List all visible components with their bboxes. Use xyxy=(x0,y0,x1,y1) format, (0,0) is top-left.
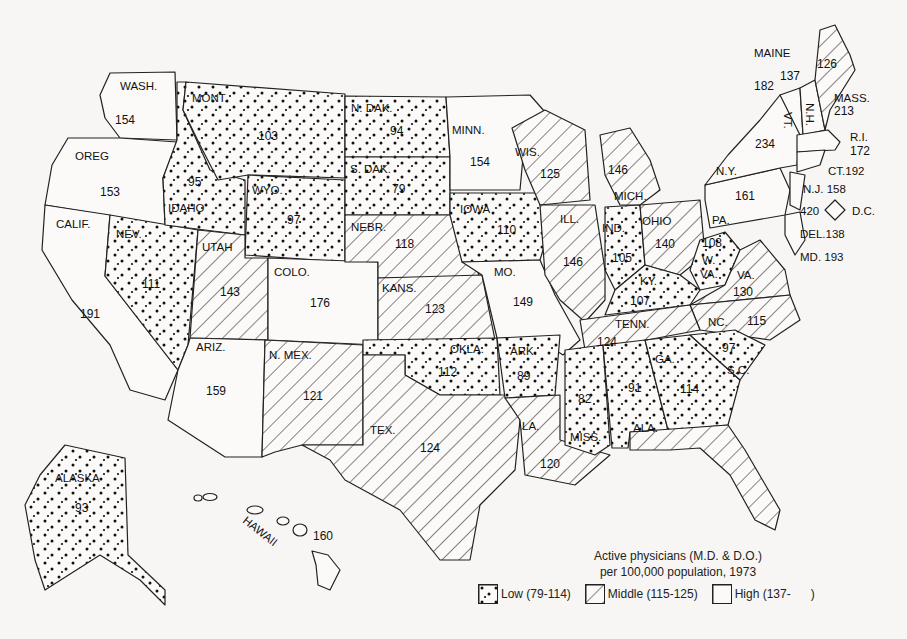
hatch-swatch-icon xyxy=(585,584,605,604)
label-sc: S.C. xyxy=(727,364,749,376)
label-wis: WIS. xyxy=(515,146,540,158)
label-wva-2: VA. xyxy=(700,268,718,280)
label-ark: ARK. xyxy=(510,345,537,357)
label-ri: R.I. xyxy=(850,131,868,143)
value-oreg: 153 xyxy=(100,185,120,199)
label-iowa: IOWA xyxy=(460,203,491,215)
label-ill: ILL. xyxy=(560,213,579,225)
label-ny: N.Y. xyxy=(716,165,737,177)
legend-item-middle: Middle (115-125) xyxy=(585,584,698,604)
label-mich: MICH. xyxy=(614,190,647,202)
label-ariz: ARIZ. xyxy=(196,341,225,353)
value-miss: 82 xyxy=(578,392,592,406)
value-nev: 111 xyxy=(142,277,161,291)
label-nc: NC. xyxy=(708,316,728,328)
value-sc: 97 xyxy=(722,341,736,355)
value-iowa: 110 xyxy=(497,223,516,237)
state-ct xyxy=(797,150,825,172)
value-alaska: 93 xyxy=(75,501,89,515)
label-calif: CALIF. xyxy=(56,218,91,230)
label-la: LA. xyxy=(522,420,539,432)
value-vt: 182 xyxy=(754,79,774,93)
value-ohio: 140 xyxy=(655,237,675,251)
label-pa: PA. xyxy=(712,214,730,226)
value-ala: 91 xyxy=(628,381,642,395)
value-dc: 420 xyxy=(800,205,819,217)
state-alaska xyxy=(25,445,165,605)
value-pa: 161 xyxy=(735,189,755,203)
value-wva: 108 xyxy=(702,236,722,250)
label-tenn: TENN. xyxy=(615,318,650,330)
value-ndak: 94 xyxy=(390,124,404,138)
legend-title-line2: per 100,000 population, 1973 xyxy=(458,564,898,580)
label-ala: ALA. xyxy=(633,422,658,434)
value-nmex: 121 xyxy=(303,389,323,403)
blank-swatch-icon xyxy=(712,584,732,604)
label-md: MD. 193 xyxy=(800,251,843,263)
label-tex: TEX. xyxy=(370,424,396,436)
dc-diamond xyxy=(825,200,845,220)
label-ndak: N. DAK. xyxy=(351,102,393,114)
value-utah: 143 xyxy=(220,285,240,299)
label-wyo: WYO. xyxy=(252,184,283,196)
label-va: VA. xyxy=(737,269,755,281)
label-nmex: N. MEX. xyxy=(269,349,312,361)
legend-label-middle: Middle (115-125) xyxy=(608,587,698,601)
label-nebr: NEBR. xyxy=(351,221,386,233)
label-ohio: OHIO xyxy=(642,215,671,227)
value-nh: 137 xyxy=(780,69,800,83)
legend-label-low: Low (79-114) xyxy=(501,587,571,601)
value-colo: 176 xyxy=(310,296,330,310)
dots-swatch-icon xyxy=(478,584,498,604)
label-sdak: S. DAK. xyxy=(350,163,391,175)
legend-title-line1: Active physicians (M.D. & D.O.) xyxy=(458,548,898,564)
label-ind: IND. xyxy=(602,222,625,234)
label-colo: COLO. xyxy=(274,266,310,278)
value-ariz: 159 xyxy=(206,384,226,398)
value-ky: 107 xyxy=(630,294,650,308)
value-nc: 115 xyxy=(747,314,766,328)
value-okla: 112 xyxy=(438,365,457,379)
label-del: DEL.138 xyxy=(800,228,845,240)
label-utah: UTAH xyxy=(202,241,232,253)
value-hawaii: 160 xyxy=(313,529,333,543)
value-nebr: 118 xyxy=(395,237,414,251)
label-miss: MISS. xyxy=(570,431,601,443)
label-mont: MONT. xyxy=(192,92,228,104)
value-la: 120 xyxy=(540,457,560,471)
value-calif: 191 xyxy=(80,307,100,321)
value-ri: 172 xyxy=(850,144,870,158)
label-kans: KANS. xyxy=(382,282,417,294)
label-wash: WASH. xyxy=(120,80,157,92)
value-ind: 105 xyxy=(612,251,632,265)
value-mo: 149 xyxy=(513,295,533,309)
label-wva-1: W. xyxy=(702,254,715,266)
value-ga: 114 xyxy=(680,382,699,396)
label-okla: OKLA. xyxy=(450,343,484,355)
label-minn: MINN. xyxy=(452,124,485,136)
label-nev: NEV. xyxy=(116,228,142,240)
value-tenn: 124 xyxy=(597,335,617,349)
label-ct: CT.192 xyxy=(828,165,864,177)
value-va: 130 xyxy=(733,285,753,299)
label-hawaii: HAWAII xyxy=(241,514,280,548)
value-wis: 125 xyxy=(540,167,560,181)
label-oreg: OREG xyxy=(75,150,109,162)
value-idaho: 95 xyxy=(188,175,202,189)
label-ga: GA. xyxy=(655,353,675,365)
label-alaska: ALASKA xyxy=(55,472,100,484)
label-mass: MASS. xyxy=(834,92,870,104)
value-minn: 154 xyxy=(470,155,490,169)
value-sdak: 79 xyxy=(392,182,406,196)
value-tex: 124 xyxy=(420,441,440,455)
value-ny: 234 xyxy=(755,137,775,151)
legend-label-high: High (137- ) xyxy=(735,587,815,601)
value-ill: 146 xyxy=(563,255,583,269)
value-wash: 154 xyxy=(115,113,135,127)
label-dc: D.C. xyxy=(852,205,875,217)
value-maine: 126 xyxy=(817,57,837,71)
label-nj: N.J. 158 xyxy=(803,183,846,195)
value-mont: 103 xyxy=(258,129,278,143)
value-mich: 146 xyxy=(608,163,628,177)
value-wyo: 97 xyxy=(287,213,301,227)
